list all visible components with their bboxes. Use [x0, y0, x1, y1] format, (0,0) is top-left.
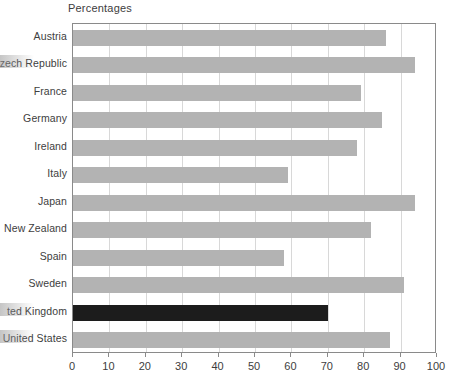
category-label: Austria [34, 30, 67, 42]
category-label: United States [3, 332, 67, 344]
bar [73, 57, 415, 73]
category-label: Spain [40, 250, 67, 262]
category-label: France [34, 85, 67, 97]
category-label: Sweden [28, 277, 67, 289]
bar-series [73, 24, 435, 352]
bar [73, 250, 284, 266]
bar [73, 30, 386, 46]
bar-row [73, 222, 435, 238]
category-axis-labels: Austriazech RepublicFranceGermanyIreland… [0, 23, 70, 353]
bar-row [73, 57, 435, 73]
x-tick-label: 100 [427, 360, 445, 372]
bar-row [73, 195, 435, 211]
category-label: New Zealand [4, 222, 67, 234]
bar-row [73, 112, 435, 128]
bar-row [73, 250, 435, 266]
x-tick-label: 60 [284, 360, 296, 372]
bar [73, 85, 361, 101]
x-tick-mark [254, 353, 255, 357]
x-tick-label: 90 [393, 360, 405, 372]
bar-row [73, 277, 435, 293]
bar-row [73, 167, 435, 183]
bar [73, 140, 357, 156]
x-tick-mark [108, 353, 109, 357]
bar [73, 112, 382, 128]
plot-area [72, 23, 436, 353]
bar [73, 277, 404, 293]
bar [73, 305, 328, 321]
bar-row [73, 332, 435, 348]
category-label: ted Kingdom [7, 305, 67, 317]
bar-row [73, 305, 435, 321]
x-tick-mark [400, 353, 401, 357]
bar [73, 195, 415, 211]
x-tick-mark [290, 353, 291, 357]
category-label: Ireland [34, 140, 67, 152]
bar-chart: Percentages Austriazech RepublicFranceGe… [0, 0, 456, 392]
x-axis: 0102030405060708090100 [72, 353, 436, 383]
x-tick-mark [327, 353, 328, 357]
x-tick-mark [218, 353, 219, 357]
x-tick-mark [436, 353, 437, 357]
category-label: Italy [47, 167, 67, 179]
bar-row [73, 30, 435, 46]
x-tick-mark [181, 353, 182, 357]
x-tick-label: 80 [357, 360, 369, 372]
x-tick-label: 0 [69, 360, 75, 372]
chart-title: Percentages [68, 2, 132, 14]
x-tick-label: 40 [211, 360, 223, 372]
bar [73, 222, 371, 238]
x-tick-mark [72, 353, 73, 357]
bar [73, 167, 288, 183]
bar [73, 332, 390, 348]
x-tick-label: 20 [139, 360, 151, 372]
x-tick-label: 30 [175, 360, 187, 372]
x-tick-mark [145, 353, 146, 357]
bar-row [73, 85, 435, 101]
bar-row [73, 140, 435, 156]
x-tick-label: 70 [321, 360, 333, 372]
x-tick-mark [363, 353, 364, 357]
x-tick-label: 10 [102, 360, 114, 372]
category-label: Japan [38, 195, 67, 207]
x-tick-label: 50 [248, 360, 260, 372]
category-label: Germany [23, 112, 67, 124]
category-label: zech Republic [0, 57, 67, 69]
